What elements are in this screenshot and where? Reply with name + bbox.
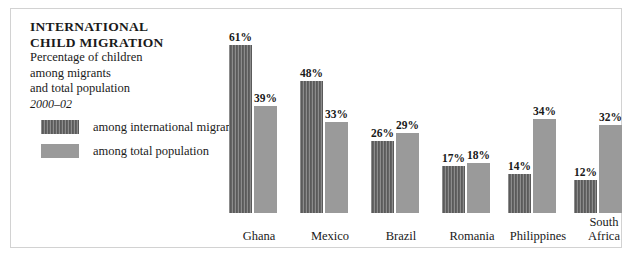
bar-value-label: 39%	[254, 92, 277, 104]
bar-group-bars: 17%18%	[442, 45, 490, 213]
bar-rect[interactable]	[467, 163, 490, 213]
bar-value-label: 17%	[442, 152, 465, 164]
bar-migrants[interactable]: 61%	[229, 31, 252, 213]
bar-rect[interactable]	[599, 125, 622, 213]
category-label: Philippines	[508, 230, 568, 244]
bar-migrants[interactable]: 14%	[508, 160, 531, 213]
bar-group-bars: 61%39%	[229, 45, 277, 213]
bar-total[interactable]: 34%	[533, 105, 556, 213]
bar-group: 12%32%SouthAfrica	[574, 9, 634, 249]
bar-group: 17%18%Romania	[442, 9, 502, 249]
category-label: Brazil	[371, 230, 431, 244]
bar-rect[interactable]	[254, 106, 277, 213]
category-label-line: Mexico	[300, 230, 360, 244]
category-label-line: Philippines	[508, 230, 568, 244]
bar-value-label: 48%	[300, 67, 323, 79]
bar-total[interactable]: 32%	[599, 111, 622, 213]
bar-total[interactable]: 33%	[325, 108, 348, 213]
bar-rect[interactable]	[371, 141, 394, 213]
bar-group: 14%34%Philippines	[508, 9, 568, 249]
bar-migrants[interactable]: 17%	[442, 152, 465, 213]
bar-value-label: 18%	[467, 149, 490, 161]
category-label-line: Ghana	[229, 230, 289, 244]
bar-value-label: 26%	[371, 127, 394, 139]
category-label: Ghana	[229, 230, 289, 244]
bar-rect[interactable]	[325, 122, 348, 213]
bar-migrants[interactable]: 12%	[574, 166, 597, 213]
bar-rect[interactable]	[533, 119, 556, 213]
bar-rect[interactable]	[574, 180, 597, 213]
bar-value-label: 12%	[574, 166, 597, 178]
bar-value-label: 33%	[325, 108, 348, 120]
bar-group-bars: 26%29%	[371, 45, 419, 213]
category-label: Romania	[442, 230, 502, 244]
bar-group-bars: 48%33%	[300, 45, 348, 213]
category-label: Mexico	[300, 230, 360, 244]
plot-area: 61%39%Ghana48%33%Mexico26%29%Brazil17%18…	[11, 9, 623, 249]
bar-group-bars: 12%32%	[574, 45, 622, 213]
bar-value-label: 14%	[508, 160, 531, 172]
bar-value-label: 32%	[599, 111, 622, 123]
bar-value-label: 61%	[229, 31, 252, 43]
bar-rect[interactable]	[508, 174, 531, 213]
bar-group: 61%39%Ghana	[229, 9, 289, 249]
bar-migrants[interactable]: 26%	[371, 127, 394, 213]
bar-rect[interactable]	[442, 166, 465, 213]
bar-total[interactable]: 29%	[396, 119, 419, 213]
category-label-line: Africa	[574, 230, 634, 244]
bar-group: 26%29%Brazil	[371, 9, 431, 249]
bar-total[interactable]: 39%	[254, 92, 277, 213]
bar-total[interactable]: 18%	[467, 149, 490, 213]
bar-group: 48%33%Mexico	[300, 9, 360, 249]
chart-figure: INTERNATIONAL CHILD MIGRATION Percentage…	[10, 8, 622, 248]
category-label-line: South	[574, 216, 634, 230]
category-label-line: Romania	[442, 230, 502, 244]
bar-value-label: 29%	[396, 119, 419, 131]
bar-group-bars: 14%34%	[508, 45, 556, 213]
bar-rect[interactable]	[229, 45, 252, 213]
bar-rect[interactable]	[396, 133, 419, 213]
bar-migrants[interactable]: 48%	[300, 67, 323, 213]
category-label-line: Brazil	[371, 230, 431, 244]
bar-value-label: 34%	[533, 105, 556, 117]
bar-rect[interactable]	[300, 81, 323, 213]
category-label: SouthAfrica	[574, 216, 634, 243]
